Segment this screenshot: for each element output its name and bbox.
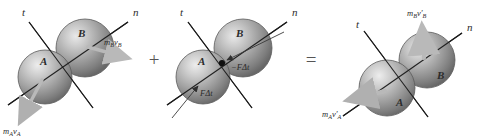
- axis-label-n: n: [467, 21, 473, 33]
- axis-label-n: n: [133, 6, 139, 18]
- final-momentum-arrow-b: [422, 26, 424, 58]
- sphere-label-a: A: [39, 55, 47, 67]
- axis-label-n: n: [292, 6, 298, 18]
- svg-text:−FΔt: −FΔt: [231, 62, 250, 72]
- sphere-label-a: A: [197, 55, 205, 67]
- equals-operator: =: [306, 49, 317, 70]
- plus-operator: +: [149, 49, 160, 70]
- impulse-label-on-b: −FΔt: [231, 62, 250, 72]
- contact-point-dot: [219, 60, 225, 66]
- impulse-momentum-figure: t n A B mBvB mAvA + t n A B: [0, 0, 483, 140]
- sphere-label-b: B: [235, 27, 243, 39]
- sphere-label-b: B: [436, 69, 444, 81]
- figure-canvas: t n A B mBvB mAvA + t n A B: [0, 0, 483, 140]
- sphere-label-b: B: [77, 27, 85, 39]
- sphere-label-a: A: [395, 96, 403, 108]
- svg-text:FΔt: FΔt: [199, 88, 213, 98]
- impulse-label-on-a: FΔt: [199, 88, 213, 98]
